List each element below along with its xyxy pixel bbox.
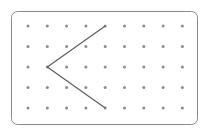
grid-dot <box>104 45 107 48</box>
grid-dot <box>162 66 165 69</box>
grid-dot <box>27 25 30 28</box>
grid-dot <box>46 45 49 48</box>
grid-dot <box>65 45 68 48</box>
grid-dot <box>27 107 30 110</box>
grid-dot <box>65 107 68 110</box>
geoboard <box>0 0 202 134</box>
grid-dot <box>84 107 87 110</box>
grid-dot <box>142 66 145 69</box>
grid-dot <box>181 25 184 28</box>
grid-dot <box>162 45 165 48</box>
grid-dot <box>123 66 126 69</box>
grid-dot <box>123 25 126 28</box>
grid-dot <box>84 86 87 89</box>
grid-dot <box>65 25 68 28</box>
grid-dot <box>123 86 126 89</box>
grid-dot <box>65 66 68 69</box>
grid-dot <box>84 25 87 28</box>
grid-dot <box>181 45 184 48</box>
grid-dot <box>162 86 165 89</box>
grid-dot <box>65 86 68 89</box>
grid-dot <box>181 66 184 69</box>
grid-dot <box>123 45 126 48</box>
grid-dot <box>123 107 126 110</box>
grid-dot <box>162 107 165 110</box>
grid-dot <box>84 45 87 48</box>
grid-dot <box>104 66 107 69</box>
grid-dot <box>181 107 184 110</box>
grid-dot <box>46 107 49 110</box>
grid-dot <box>27 66 30 69</box>
grid-dot <box>84 66 87 69</box>
grid-dot <box>142 25 145 28</box>
grid-dot <box>46 86 49 89</box>
grid-dot <box>27 45 30 48</box>
grid-dot <box>142 107 145 110</box>
grid-dot <box>162 25 165 28</box>
grid-dot <box>142 45 145 48</box>
grid-dot <box>104 86 107 89</box>
grid-dot <box>46 25 49 28</box>
grid-dot <box>142 86 145 89</box>
grid-dot <box>181 86 184 89</box>
grid-dot <box>27 86 30 89</box>
